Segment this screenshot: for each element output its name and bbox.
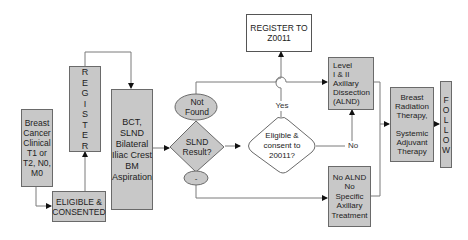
eligible-consented-box: ELIGIBLE & CONSENTED: [52, 191, 106, 222]
register-letter: I: [84, 99, 87, 110]
follow-box: F O L L O W: [440, 81, 452, 168]
not-found-label: Not Found: [176, 95, 218, 119]
register-letter: R: [82, 67, 89, 78]
follow-letter: W: [442, 145, 450, 155]
bct-slnd-box: BCT, SLND Bilateral Iliac Crest BM Aspir…: [111, 89, 153, 210]
register-box: R E G I S T E R: [69, 66, 101, 152]
register-letter: S: [82, 109, 88, 120]
breast-cancer-clinical-box: Breast Cancer Clinical T1 or T2, N0, M0: [21, 109, 53, 187]
yes-edge-label: Yes: [270, 101, 294, 111]
radiation-adjuvant-box: Breast Radiation Therapy, Systemic Adjuv…: [390, 87, 434, 162]
register-z0011-box: REGISTER TO Z0011: [246, 14, 312, 52]
follow-letter: O: [443, 135, 450, 145]
alnd-box: Level I & II Axillary Dissection (ALND): [328, 57, 374, 110]
eligible-z0011-label: Eligible & consent to 20011?: [252, 128, 312, 164]
follow-letter: L: [444, 115, 449, 125]
no-alnd-box: No ALND No Specific Axillary Treatment: [328, 166, 371, 227]
register-letter: T: [82, 120, 88, 131]
follow-letter: F: [443, 95, 448, 105]
register-letter: E: [82, 78, 88, 89]
register-letter: E: [82, 130, 88, 141]
follow-letter: L: [444, 125, 449, 135]
register-letter: G: [81, 88, 88, 99]
negative-label: -: [186, 172, 206, 184]
no-edge-label: No: [345, 141, 361, 151]
slnd-result-label: SLND Result?: [172, 134, 222, 160]
register-letter: R: [82, 141, 89, 152]
follow-letter: O: [443, 105, 450, 115]
